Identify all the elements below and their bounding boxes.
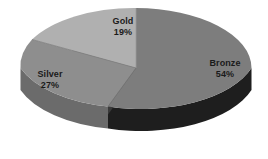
- pie-chart-figure: Gold 19% Silver 27% Bronze 54%: [0, 0, 268, 159]
- pie-chart-svg: [0, 0, 268, 159]
